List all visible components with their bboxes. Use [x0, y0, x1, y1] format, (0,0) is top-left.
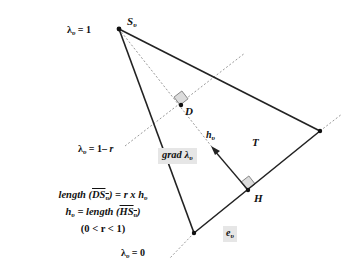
label-t: T	[252, 137, 259, 148]
grad-text: grad λ	[162, 149, 189, 160]
lambda-value: = 1	[75, 24, 91, 35]
edge-s-right	[119, 29, 320, 131]
f2-hs: HS	[120, 206, 134, 217]
label-s-upsilon: Sυ	[127, 16, 137, 29]
vertex-bottom	[192, 231, 196, 235]
point-h	[246, 188, 250, 192]
label-d: D	[185, 106, 193, 117]
label-lambda-0: λυ = 0	[121, 248, 145, 260]
label-grad-lambda: grad λυ	[158, 148, 197, 164]
lambda-value: = 1–	[86, 143, 109, 154]
label-h-point: H	[254, 193, 263, 204]
formula-block: length (DSυ) = r x hυ hυ = length (HSυ) …	[28, 188, 178, 236]
r-var: r	[110, 143, 114, 154]
formula-line-2: hυ = length (HSυ)	[28, 205, 178, 222]
h-sub: υ	[212, 134, 215, 142]
h-arrow	[214, 150, 248, 190]
f1-a: length (	[58, 189, 92, 200]
level-line-0-extension-right	[320, 114, 342, 131]
grad-sub: υ	[189, 154, 192, 162]
formula-line-1: length (DSυ) = r x hυ	[28, 188, 178, 205]
label-e-upsilon: eυ	[223, 226, 237, 242]
formula-line-3: (0 < r < 1)	[28, 222, 178, 236]
f1-sub2: υ	[144, 194, 147, 202]
lambda-value: = 0	[129, 247, 145, 258]
e-sub: υ	[230, 232, 233, 240]
f2-b: = length (	[75, 206, 120, 217]
vertex-s	[117, 27, 122, 32]
f1-c: ) = r x h	[109, 189, 144, 200]
label-h-upsilon: hυ	[206, 130, 215, 142]
s-sub: υ	[133, 21, 136, 29]
label-lambda-1: λυ = 1	[67, 25, 91, 37]
s-to-h-dashed-line	[119, 29, 212, 147]
vertex-right	[318, 129, 322, 133]
f2-d: )	[137, 206, 141, 217]
f1-ds: DS	[92, 189, 105, 200]
label-lambda-1-minus-r: λυ = 1– r	[78, 144, 113, 156]
level-line-0-extension-left	[170, 233, 194, 258]
arrowhead-icon	[211, 146, 220, 155]
point-d	[179, 103, 183, 107]
